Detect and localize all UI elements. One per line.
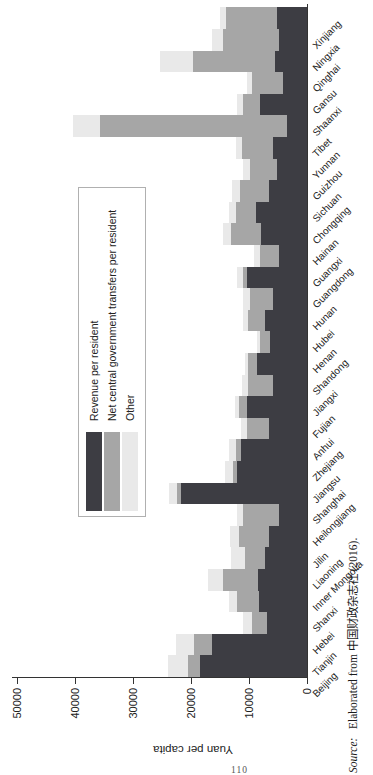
bar-segment-revenue-tianjin [212,634,307,656]
bar-segment-revenue-yunnan [273,137,307,159]
y-tick-label: 20000 [185,688,197,732]
bar-segment-revenue-hainan [261,223,307,245]
bar-segment-transfers-jiangxi [248,375,273,397]
bar-segment-other-jilin [230,526,239,548]
bar-segment-transfers-beijing [188,655,201,677]
page-number: 110 [231,765,248,775]
scanned-book-page: 01000020000300004000050000 BeijingTianji… [0,0,373,775]
bar-segment-revenue-jiangsu [237,461,307,483]
bar-segment-revenue-hunan [273,288,307,310]
bar-segment-other-tibet [73,115,100,137]
bar-segment-revenue-shanxi [259,591,307,613]
bar-segment-transfers-hainan [231,223,261,245]
bar-segment-transfers-ningxia [223,29,278,51]
bar-segment-transfers-heilongjiang [243,504,278,526]
bar-segment-transfers-chongqing [236,202,256,224]
legend-swatch-transfers [104,432,120,511]
source-note: Source: Elaborated from 中国财政杂志社 (2016). [344,373,360,773]
bar-segment-revenue-jiangxi [273,375,307,397]
bar-segment-other-shandong [245,353,248,375]
bar-segment-other-hebei [243,612,252,634]
bar-segment-other-gansu [247,72,252,94]
bar-segment-transfers-shanghai [177,483,180,505]
bar-segment-transfers-anhui [247,418,269,440]
bar-segment-transfers-qinghai [193,51,275,73]
bar-segment-revenue-jilin [269,526,307,548]
bar-segment-other-hunan [243,288,250,310]
bar-segment-other-tianjin [176,634,195,656]
bar-segment-other-henan [257,331,260,353]
bar-segment-other-yunnan [236,137,242,159]
bar-segment-transfers-tibet [100,115,287,137]
bar-segment-other-inner-mongolia [208,569,223,591]
bar-segment-revenue-beijing [200,655,307,677]
bar-segment-revenue-ningxia [279,29,307,51]
category-label-hunan: Hunan [311,304,339,332]
bar-segment-transfers-guangdong [243,267,247,289]
source-prefix: Source: [347,738,359,773]
bar-segment-revenue-fujian [247,396,307,418]
y-tick-label: 10000 [243,688,255,732]
bar-segment-transfers-shandong [248,353,257,375]
y-tick [307,678,308,684]
bar-segment-transfers-inner-mongolia [223,569,258,591]
bar-segment-other-xinjiang [220,7,226,29]
bar-segment-transfers-jiangsu [233,461,237,483]
bar-segment-revenue-guizhou [277,159,307,181]
legend-swatch-revenue [86,432,102,511]
bar-segment-revenue-anhui [269,418,307,440]
bar-segment-transfers-gansu [252,72,283,94]
bar-segment-revenue-shaanxi [260,94,307,116]
bar-segment-other-zhejiang [229,439,235,461]
bar-segment-transfers-hubei [248,310,265,332]
bar-segment-revenue-zhejiang [241,439,307,461]
bar-segment-transfers-jilin [239,526,269,548]
bar-segment-transfers-liaoning [245,547,265,569]
bar-segment-other-guizhou [243,159,251,181]
bar-segment-transfers-henan [260,331,270,353]
bar-segment-other-hubei [243,310,249,332]
bar-segment-revenue-qinghai [275,51,307,73]
bar-segment-transfers-fujian [239,396,247,418]
bar-segment-other-shanghai [169,483,177,505]
bar-segment-revenue-shanghai [181,483,307,505]
bar-segment-transfers-hunan [250,288,273,310]
y-tick-label: 50000 [11,688,23,732]
bar-segment-other-chongqing [229,202,236,224]
bar-segment-transfers-xinjiang [226,7,277,29]
bar-segment-other-anhui [241,418,247,440]
bar-segment-transfers-shanxi [237,591,259,613]
bar-segment-transfers-tianjin [194,634,212,656]
bar-segment-revenue-liaoning [265,547,307,569]
y-tick-label: 40000 [69,688,81,732]
bar-segment-revenue-inner-mongolia [258,569,307,591]
y-tick [249,678,250,684]
bar-segment-other-hainan [223,223,231,245]
bar-segment-transfers-shaanxi [243,94,260,116]
bar-segment-revenue-xinjiang [277,7,307,29]
y-tick [75,678,76,684]
legend-box: Revenue per resident Net central governm… [78,187,146,517]
bar-segment-revenue-hubei [265,310,307,332]
legend-label-transfers: Net central government transfers per res… [106,210,118,421]
bar-segment-other-fujian [235,396,239,418]
bar-segment-other-liaoning [231,547,245,569]
bar-segment-revenue-heilongjiang [279,504,307,526]
bar-segment-other-shaanxi [237,94,243,116]
bar-segment-revenue-guangxi [279,245,307,267]
bar-segment-other-beijing [168,655,187,677]
bar-segment-other-guangdong [237,267,243,289]
bar-segment-revenue-gansu [283,72,307,94]
y-tick [17,678,18,684]
category-label-fujian: Fujian [311,414,337,440]
bar-segment-transfers-guangxi [260,245,279,267]
bar-segment-other-ningxia [212,29,224,51]
bar-segment-other-heilongjiang [237,504,243,526]
y-tick-label: 30000 [127,688,139,732]
rotated-figure: 01000020000300004000050000 BeijingTianji… [0,0,373,775]
bar-segment-revenue-chongqing [256,202,307,224]
bar-segment-other-sichuan [232,180,240,202]
bar-segment-other-guangxi [254,245,260,267]
bar-segment-revenue-henan [270,331,307,353]
x-axis-line [307,4,308,678]
